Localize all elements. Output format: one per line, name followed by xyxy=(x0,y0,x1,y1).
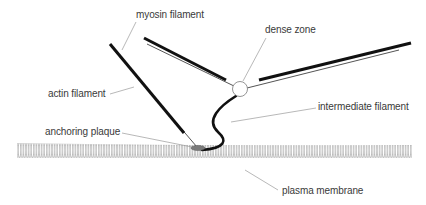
anchoring-plaque xyxy=(191,145,205,150)
myosin-filament-middle xyxy=(144,38,226,80)
label-intermediate-filament: intermediate filament xyxy=(318,101,409,113)
leader-intermediate xyxy=(231,108,316,122)
leader-dense-zone xyxy=(243,38,266,81)
leader-actin xyxy=(110,87,134,94)
dense-zone xyxy=(233,82,248,97)
label-anchoring-plaque: anchoring plaque xyxy=(45,126,120,138)
plasma-membrane xyxy=(17,143,412,160)
leader-lines xyxy=(110,22,316,190)
actin-filament-right xyxy=(247,50,399,88)
myosin-filament-left xyxy=(110,44,184,133)
label-actin-filament: actin filament xyxy=(48,88,106,100)
leader-myosin xyxy=(122,22,136,50)
intermediate-filament xyxy=(202,96,236,150)
myosin-filament-right xyxy=(259,43,411,80)
label-myosin-filament: myosin filament xyxy=(136,9,204,21)
actin-filament-middle xyxy=(147,44,234,86)
leader-plasma-membrane xyxy=(245,170,278,190)
label-plasma-membrane: plasma membrane xyxy=(282,185,363,197)
label-dense-zone: dense zone xyxy=(265,24,316,36)
